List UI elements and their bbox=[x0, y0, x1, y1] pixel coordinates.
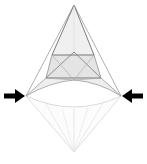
left-arrow-shaft bbox=[4, 94, 16, 99]
figure-container: Wireframe bipyramid deformation diagram … bbox=[0, 0, 147, 164]
left-arrow bbox=[4, 89, 25, 103]
right-arrow-shaft bbox=[131, 94, 143, 99]
mid-band-fill bbox=[46, 55, 101, 78]
right-arrow-head bbox=[122, 89, 132, 103]
lower-cone-fill bbox=[26, 96, 121, 152]
mid-band-group bbox=[26, 52, 121, 96]
upper-spike-fill bbox=[52, 5, 94, 55]
left-arrow-head bbox=[15, 89, 25, 103]
right-arrow bbox=[122, 89, 143, 103]
lower-cone-group bbox=[26, 96, 121, 152]
shape-diagram bbox=[0, 0, 147, 164]
